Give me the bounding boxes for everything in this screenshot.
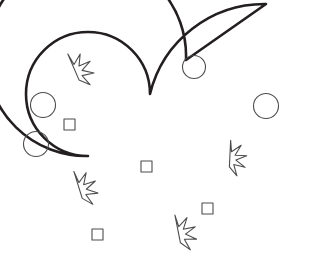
spiral-shell-illustration (0, 0, 309, 271)
artboard (0, 0, 309, 271)
